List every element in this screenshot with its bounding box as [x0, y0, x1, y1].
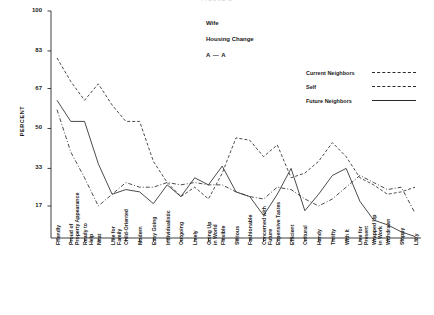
axes [48, 11, 422, 242]
series-line-self [57, 58, 415, 199]
plot-area [0, 0, 434, 315]
series-lines [57, 58, 415, 237]
series-line-current-neighbors [57, 110, 415, 213]
chart-page: FIGURE 5 Wife Housing Change A — A Curre… [0, 0, 434, 315]
series-line-future-neighbors [57, 100, 415, 236]
